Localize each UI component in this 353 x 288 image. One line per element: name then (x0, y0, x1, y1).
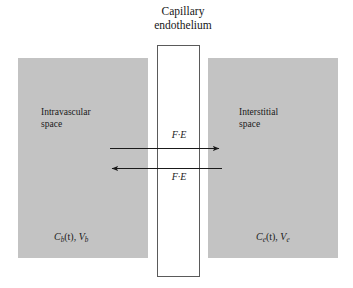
interstitial-concentration-symbol: C (256, 231, 263, 242)
diagram-title-line-1: Capillary (124, 5, 242, 19)
interstitial-space-label-line-1: Interstitial (239, 106, 334, 118)
capillary-exchange-diagram: Capillary endothelium Intravascular spac… (0, 0, 353, 288)
interstitial-space-label: Interstitial space (239, 106, 334, 130)
diagram-title: Capillary endothelium (124, 5, 242, 32)
intravascular-concentration-symbol: C (54, 231, 61, 242)
intravascular-space-label: Intravascular space (41, 106, 136, 130)
intravascular-volume-symbol: V (79, 231, 85, 242)
intravascular-space-label-line-1: Intravascular (41, 106, 136, 118)
interstitial-concentration-subscript: e (263, 236, 266, 244)
interstitial-space-label-line-2: space (239, 118, 334, 130)
intravascular-space-label-line-2: space (41, 118, 136, 130)
efflux-flux-label: F·E (149, 129, 209, 140)
intravascular-concentration-subscript: b (61, 236, 65, 244)
influx-flux-label: F·E (149, 171, 209, 182)
interstitial-volume-subscript: e (286, 236, 289, 244)
intravascular-variables-label: Cb(t), Vb (54, 231, 88, 242)
intravascular-compartment-box (18, 58, 148, 258)
intravascular-volume-subscript: b (85, 236, 89, 244)
intravascular-concentration-argument: (t) (64, 231, 73, 242)
diagram-title-line-2: endothelium (124, 19, 242, 33)
capillary-endothelium-channel (157, 45, 200, 277)
interstitial-compartment-box (208, 58, 338, 258)
interstitial-variables-label: Ce(t), Ve (256, 231, 290, 242)
interstitial-concentration-argument: (t) (266, 231, 275, 242)
